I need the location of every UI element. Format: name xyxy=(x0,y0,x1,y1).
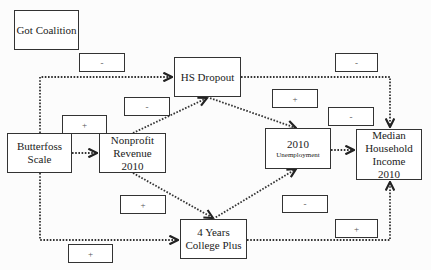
sign-hs-income: - xyxy=(335,53,378,72)
node-label: Median Household Income 2010 xyxy=(361,129,417,181)
node-label: 4 Years College Plus xyxy=(185,226,242,252)
node-got-coalition: Got Coalition xyxy=(14,10,79,50)
node-college-plus: 4 Years College Plus xyxy=(180,219,247,259)
sign-hs-unemployment: + xyxy=(272,89,318,108)
node-hs-dropout: HS Dropout xyxy=(174,57,241,97)
node-median-income: Median Household Income 2010 xyxy=(356,129,422,180)
sign-nonprofit-hs: - xyxy=(124,97,170,116)
node-label: HS Dropout xyxy=(181,71,234,84)
path-diagram: Got Coalition HS Dropout Butterfoss Scal… xyxy=(0,0,431,270)
sign-nonprofit-college: + xyxy=(120,195,166,214)
node-label: Butterfoss Scale xyxy=(16,140,63,166)
sign-butterfoss-nonprofit: + xyxy=(62,115,107,134)
sign-unemployment-income: - xyxy=(328,107,374,126)
node-label-year: 2010 xyxy=(287,138,309,151)
sign-college-unemployment: - xyxy=(282,195,328,213)
node-unemployment: 2010 Unemployment xyxy=(265,128,331,169)
node-label: Nonprofit Revenue 2010 xyxy=(106,134,159,173)
node-nonprofit-revenue: Nonprofit Revenue 2010 xyxy=(99,133,166,173)
node-label: Unemployment xyxy=(276,151,320,160)
sign-college-income: + xyxy=(335,219,378,238)
sign-coalition-hs: - xyxy=(79,53,125,72)
node-label: Got Coalition xyxy=(16,24,76,37)
node-butterfoss-scale: Butterfoss Scale xyxy=(7,133,72,173)
sign-butterfoss-college: + xyxy=(68,244,113,263)
